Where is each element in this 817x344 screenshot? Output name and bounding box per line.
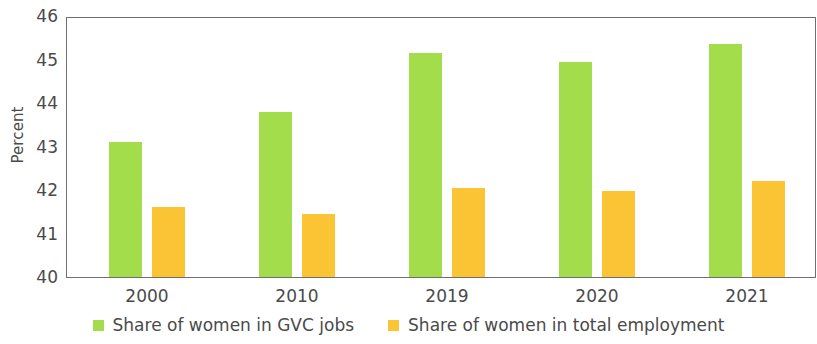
y-axis-tick-label: 44 (18, 95, 58, 112)
bar-group (367, 18, 517, 277)
bar-group (67, 18, 217, 277)
legend-swatch-icon (388, 320, 399, 331)
bar-2019-series-1[interactable] (409, 53, 442, 277)
bar-2019-series-2[interactable] (452, 188, 485, 277)
bar-2010-series-1[interactable] (259, 112, 292, 277)
bar-group (217, 18, 367, 277)
bar-group (517, 18, 667, 277)
bar-2010-series-2[interactable] (302, 214, 335, 277)
legend-label: Share of women in total employment (408, 315, 724, 335)
y-axis-tick-label: 42 (18, 182, 58, 199)
y-axis-tick-label: 41 (18, 226, 58, 243)
y-axis-tick-label: 43 (18, 139, 58, 156)
legend-label: Share of women in GVC jobs (113, 315, 355, 335)
bar-group (667, 18, 817, 277)
y-axis-tick-label: 40 (18, 269, 58, 286)
x-axis-tick-label: 2021 (687, 286, 807, 306)
bar-2021-series-2[interactable] (752, 181, 785, 277)
bar-2000-series-1[interactable] (109, 142, 142, 277)
chart-legend: Share of women in GVC jobsShare of women… (0, 315, 817, 335)
plot-area (66, 17, 816, 278)
x-axis-tick-label: 2010 (237, 286, 357, 306)
legend-item-1[interactable]: Share of women in GVC jobs (93, 315, 355, 335)
bar-chart-figure: Percent 40414243444546 20002010201920202… (0, 0, 817, 344)
x-axis-tick-label: 2019 (387, 286, 507, 306)
bar-groups (67, 18, 815, 277)
x-axis-tick-label: 2000 (87, 286, 207, 306)
bar-2021-series-1[interactable] (709, 44, 742, 277)
bar-2020-series-1[interactable] (559, 62, 592, 277)
legend-swatch-icon (93, 320, 104, 331)
x-axis-tick-label: 2020 (537, 286, 657, 306)
bar-2000-series-2[interactable] (152, 207, 185, 277)
y-axis-tick-label: 46 (18, 8, 58, 25)
legend-item-2[interactable]: Share of women in total employment (388, 315, 724, 335)
bar-2020-series-2[interactable] (602, 191, 635, 277)
y-axis-tick-label: 45 (18, 52, 58, 69)
